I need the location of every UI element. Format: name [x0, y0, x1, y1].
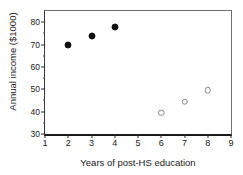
- y-axis-tick-label: 60: [31, 63, 40, 72]
- x-axis-tick-label: 8: [205, 139, 210, 148]
- y-axis-tick: [41, 66, 45, 67]
- y-axis-label: Annual income ($1000): [7, 0, 18, 126]
- y-axis-tick-label: 70: [31, 40, 40, 49]
- scatter-plot-figure: 304050607080123456789 Years of post-HS e…: [0, 0, 243, 175]
- x-axis-tick-label: 4: [112, 139, 117, 148]
- x-axis-tick-label: 9: [228, 139, 233, 148]
- y-axis-tick: [41, 44, 45, 45]
- data-point-open: [181, 98, 188, 105]
- y-axis-minor-tick: [43, 122, 46, 123]
- x-axis-tick-label: 2: [66, 139, 71, 148]
- y-axis-tick: [41, 22, 45, 23]
- data-point-filled: [88, 32, 95, 39]
- y-axis-minor-tick: [43, 100, 46, 101]
- x-axis-label: Years of post-HS education: [44, 157, 232, 168]
- x-axis-tick-label: 1: [42, 139, 47, 148]
- y-axis-minor-tick: [43, 33, 46, 34]
- y-axis-minor-tick: [43, 78, 46, 79]
- x-axis-tick-label: 3: [89, 139, 94, 148]
- plot-area: 304050607080123456789: [44, 10, 232, 136]
- y-axis-tick: [41, 89, 45, 90]
- data-point-open: [205, 87, 212, 94]
- y-axis-tick-label: 50: [31, 85, 40, 94]
- y-axis-tick: [41, 111, 45, 112]
- y-axis-minor-tick: [43, 55, 46, 56]
- data-point-open: [158, 110, 165, 117]
- data-point-filled: [65, 41, 72, 48]
- x-axis-tick-label: 6: [159, 139, 164, 148]
- x-axis-tick-label: 5: [135, 139, 140, 148]
- y-axis-tick-label: 80: [31, 18, 40, 27]
- y-axis-tick-label: 30: [31, 130, 40, 139]
- x-axis-tick-label: 7: [182, 139, 187, 148]
- y-axis-tick-label: 40: [31, 107, 40, 116]
- data-point-filled: [111, 23, 118, 30]
